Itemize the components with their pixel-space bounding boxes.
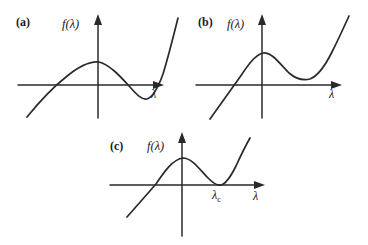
panel-c-x-axis-label: λ <box>253 190 258 202</box>
panel-c-tag: (c) <box>110 140 123 152</box>
panel-b-x-axis-label: λ <box>329 88 334 100</box>
panel-a-tag: (a) <box>16 16 30 28</box>
panel-a-curve <box>27 18 178 117</box>
panel-c-y-axis-label: f(λ) <box>147 140 164 153</box>
figure-canvas <box>0 0 368 245</box>
panel-c-critical-point-label: λc <box>212 189 221 204</box>
panel-a-y-axis-label: f(λ) <box>62 18 79 31</box>
panel-b-curve <box>210 16 349 119</box>
panel-c-axes <box>110 132 265 236</box>
panel-b-tag: (b) <box>198 16 213 28</box>
panel-a-x-axis-label: λ <box>151 88 156 100</box>
figure-root: (a) f(λ) λ (b) f(λ) λ (c) f(λ) λ λc <box>0 0 368 245</box>
critical-point-subscript: c <box>217 195 221 204</box>
panel-a-y-axis-arrow <box>94 14 102 25</box>
panel-b-y-axis-arrow <box>258 14 266 25</box>
panel-b-axes <box>196 14 342 118</box>
panel-b-y-axis-label: f(λ) <box>227 18 244 31</box>
panel-c-x-axis-arrow <box>254 181 265 189</box>
panel-c-y-axis-arrow <box>178 132 186 143</box>
panel-c-curve <box>127 138 250 217</box>
